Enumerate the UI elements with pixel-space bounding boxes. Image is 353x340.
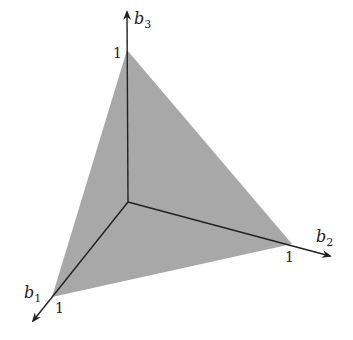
tick-label-b3: 1 <box>113 45 122 61</box>
axis-label-b3: b3 <box>134 9 151 31</box>
tick-label-b2: 1 <box>285 249 294 265</box>
axis-label-b1: b1 <box>24 283 41 305</box>
simplex-diagram: b3 b2 b1 1 1 1 <box>0 0 353 340</box>
tick-label-b1: 1 <box>55 300 64 316</box>
axis-label-b2: b2 <box>316 227 333 249</box>
axis-b3 <box>127 12 128 202</box>
simplex-triangle <box>52 50 292 297</box>
